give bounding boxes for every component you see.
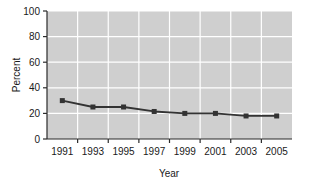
x-tick-label: 1999 (174, 146, 197, 157)
y-axis-tick-labels: 020406080100 (23, 6, 40, 145)
data-point-marker (121, 105, 126, 110)
y-axis-title: Percent (11, 58, 22, 93)
x-tick-label: 1995 (112, 146, 135, 157)
x-tick-label: 2003 (235, 146, 258, 157)
data-point-marker (90, 105, 95, 110)
y-tick-label: 100 (23, 6, 40, 17)
data-point-marker (244, 113, 249, 118)
chart-container: 020406080100 199119931995199719992001200… (0, 0, 312, 186)
data-point-marker (152, 109, 157, 114)
y-tick-label: 0 (34, 134, 40, 145)
data-point-marker (274, 113, 279, 118)
y-tick-label: 20 (29, 108, 41, 119)
data-point-marker (60, 98, 65, 103)
y-tick-label: 80 (29, 31, 41, 42)
data-point-marker (182, 111, 187, 116)
x-tick-label: 1991 (51, 146, 74, 157)
x-tick-label: 2005 (266, 146, 289, 157)
y-tick-label: 40 (29, 82, 41, 93)
x-axis-tick-labels: 19911993199519971999200120032005 (51, 146, 288, 157)
x-axis-ticks (78, 139, 262, 143)
x-tick-label: 1993 (82, 146, 105, 157)
x-tick-label: 1997 (143, 146, 166, 157)
y-tick-label: 60 (29, 57, 41, 68)
x-tick-label: 2001 (204, 146, 227, 157)
data-point-marker (213, 111, 218, 116)
line-chart: 020406080100 199119931995199719992001200… (0, 0, 312, 186)
x-axis-title: Year (159, 168, 180, 179)
